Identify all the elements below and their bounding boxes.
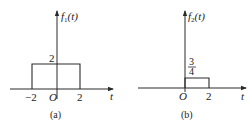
panel-b: f2(t) 3 4 O 2 t (b) <box>138 10 246 121</box>
xtick-2-b: 2 <box>206 90 212 102</box>
fraction-denominator: 4 <box>189 66 194 77</box>
xtick-neg2-a: −2 <box>25 91 37 103</box>
xlabel-a: t <box>110 90 114 102</box>
amplitude-label-a: 2 <box>49 52 55 64</box>
caption-b: (b) <box>181 109 193 121</box>
pulse-b <box>185 78 209 88</box>
figure: f1(t) 2 −2 O 2 t (a) f2(t) 3 4 O 2 t (b) <box>0 0 250 128</box>
amplitude-fraction-b: 3 4 <box>188 56 196 77</box>
ylabel-b: f2(t) <box>188 10 205 24</box>
ylabel-a: f1(t) <box>61 10 78 24</box>
caption-a: (a) <box>50 109 61 121</box>
panel-a: f1(t) 2 −2 O 2 t (a) <box>10 10 114 121</box>
xlabel-b: t <box>241 90 245 102</box>
xtick-2-a: 2 <box>77 91 83 103</box>
origin-label-b: O <box>179 90 187 102</box>
origin-label-a: O <box>49 91 57 103</box>
pulse-a <box>32 64 80 89</box>
